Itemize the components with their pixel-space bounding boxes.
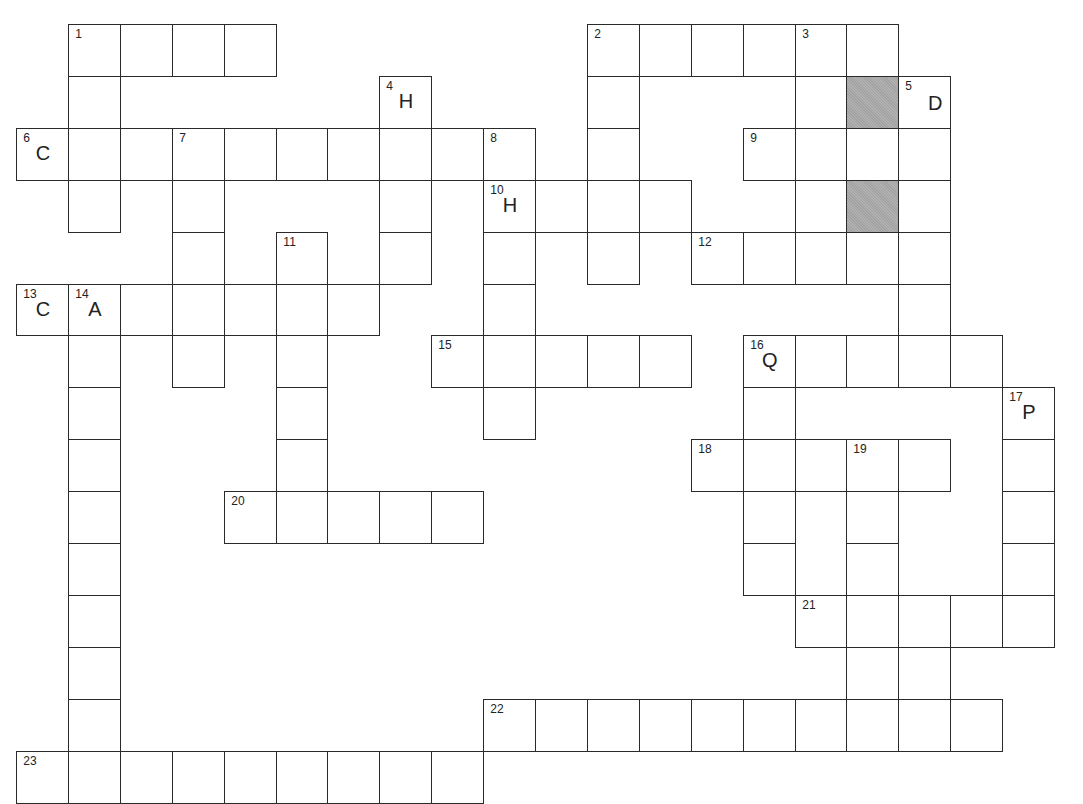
- grid-cell[interactable]: [68, 699, 121, 752]
- grid-cell[interactable]: [120, 284, 173, 336]
- grid-cell[interactable]: 16Q: [743, 335, 796, 388]
- grid-cell[interactable]: 11: [276, 232, 328, 285]
- grid-cell[interactable]: [587, 76, 640, 129]
- grid-cell[interactable]: 21: [795, 595, 847, 648]
- grid-cell[interactable]: [68, 180, 121, 233]
- grid-cell[interactable]: [743, 232, 796, 285]
- grid-cell[interactable]: [846, 647, 899, 700]
- grid-cell[interactable]: [846, 595, 899, 648]
- grid-cell[interactable]: 8: [483, 128, 536, 181]
- grid-cell[interactable]: [120, 24, 173, 77]
- grid-cell[interactable]: 10H: [483, 180, 536, 233]
- grid-cell[interactable]: [898, 128, 951, 181]
- grid-cell[interactable]: 22: [483, 699, 536, 752]
- grid-cell[interactable]: [898, 439, 951, 492]
- grid-cell[interactable]: [1002, 543, 1055, 596]
- grid-cell[interactable]: [691, 24, 744, 77]
- grid-cell[interactable]: [224, 128, 277, 181]
- grid-cell[interactable]: [639, 180, 692, 233]
- grid-cell[interactable]: [743, 24, 796, 77]
- grid-cell[interactable]: [1002, 595, 1055, 648]
- grid-cell[interactable]: 6C: [16, 128, 69, 181]
- grid-cell[interactable]: 18: [691, 439, 744, 492]
- grid-cell[interactable]: [691, 699, 744, 752]
- grid-cell[interactable]: [276, 335, 328, 388]
- grid-cell[interactable]: [846, 232, 899, 285]
- grid-cell[interactable]: [743, 439, 796, 492]
- grid-cell[interactable]: [639, 699, 692, 752]
- grid-cell[interactable]: [68, 491, 121, 544]
- grid-cell[interactable]: [483, 284, 536, 336]
- grid-cell[interactable]: [846, 491, 899, 544]
- grid-cell[interactable]: [898, 335, 951, 388]
- grid-cell[interactable]: [379, 232, 432, 285]
- grid-cell[interactable]: [898, 699, 951, 752]
- grid-cell[interactable]: [172, 335, 225, 388]
- grid-cell[interactable]: [172, 232, 225, 285]
- grid-cell[interactable]: [795, 335, 847, 388]
- grid-cell[interactable]: [483, 387, 536, 440]
- grid-cell[interactable]: [846, 335, 899, 388]
- grid-cell[interactable]: [587, 699, 640, 752]
- grid-cell[interactable]: [483, 232, 536, 285]
- grid-cell[interactable]: 15: [431, 335, 484, 388]
- grid-cell[interactable]: [1002, 439, 1055, 492]
- grid-cell[interactable]: [224, 24, 277, 77]
- grid-cell[interactable]: [431, 491, 484, 544]
- grid-cell[interactable]: [795, 128, 847, 181]
- grid-cell[interactable]: [327, 751, 380, 804]
- grid-cell[interactable]: [846, 24, 899, 77]
- grid-cell[interactable]: [327, 491, 380, 544]
- grid-cell[interactable]: [1002, 491, 1055, 544]
- grid-cell[interactable]: [950, 699, 1003, 752]
- grid-cell[interactable]: [846, 699, 899, 752]
- grid-cell[interactable]: 7: [172, 128, 225, 181]
- grid-cell[interactable]: [379, 180, 432, 233]
- grid-cell[interactable]: [379, 128, 432, 181]
- grid-cell[interactable]: [795, 439, 847, 492]
- grid-cell[interactable]: [795, 699, 847, 752]
- grid-cell[interactable]: [120, 128, 173, 181]
- grid-cell[interactable]: [68, 439, 121, 492]
- grid-cell[interactable]: [68, 543, 121, 596]
- grid-cell[interactable]: 14A: [68, 284, 121, 336]
- grid-cell[interactable]: [379, 491, 432, 544]
- grid-cell[interactable]: 9: [743, 128, 796, 181]
- grid-cell[interactable]: [587, 128, 640, 181]
- grid-cell[interactable]: [795, 232, 847, 285]
- grid-cell[interactable]: [587, 180, 640, 233]
- grid-cell[interactable]: [743, 699, 796, 752]
- grid-cell[interactable]: 13C: [16, 284, 69, 336]
- grid-cell[interactable]: 4H: [379, 76, 432, 129]
- grid-cell[interactable]: [483, 335, 536, 388]
- grid-cell[interactable]: [172, 284, 225, 336]
- grid-cell[interactable]: [535, 699, 588, 752]
- grid-cell[interactable]: [120, 751, 173, 804]
- grid-cell[interactable]: [68, 595, 121, 648]
- grid-cell[interactable]: [276, 491, 328, 544]
- grid-cell[interactable]: [898, 232, 951, 285]
- grid-cell[interactable]: [898, 180, 951, 233]
- grid-cell[interactable]: 19: [846, 439, 899, 492]
- grid-cell[interactable]: [68, 387, 121, 440]
- grid-cell[interactable]: [224, 751, 277, 804]
- grid-cell[interactable]: [276, 751, 328, 804]
- grid-cell[interactable]: [276, 387, 328, 440]
- grid-cell[interactable]: 12: [691, 232, 744, 285]
- grid-cell[interactable]: [795, 180, 847, 233]
- grid-cell[interactable]: 17P: [1002, 387, 1055, 440]
- grid-cell[interactable]: [327, 128, 380, 181]
- grid-cell[interactable]: [276, 128, 328, 181]
- grid-cell[interactable]: [950, 335, 1003, 388]
- grid-cell[interactable]: [639, 24, 692, 77]
- grid-cell[interactable]: [898, 595, 951, 648]
- grid-cell[interactable]: 20: [224, 491, 277, 544]
- grid-cell[interactable]: [535, 335, 588, 388]
- grid-cell[interactable]: [846, 543, 899, 596]
- grid-cell[interactable]: 1: [68, 24, 121, 77]
- grid-cell[interactable]: [68, 76, 121, 129]
- grid-cell[interactable]: [587, 335, 640, 388]
- grid-cell[interactable]: [846, 128, 899, 181]
- grid-cell[interactable]: 23: [16, 751, 69, 804]
- grid-cell[interactable]: [431, 751, 484, 804]
